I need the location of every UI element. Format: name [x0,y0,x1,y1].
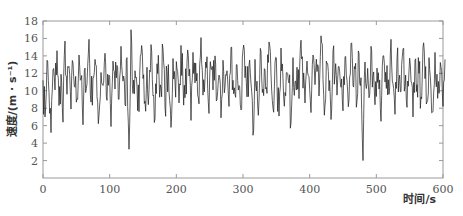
y-tick-label: 16 [24,32,38,45]
speed-time-chart: 0100200300400500600 24681012141618 时间/s … [0,0,463,216]
y-tick-label: 18 [24,15,38,28]
x-axis-title: 时间/s [403,192,436,206]
x-tick-label: 400 [299,183,320,196]
y-tick-label: 2 [31,155,38,168]
x-tick-label: 100 [99,183,120,196]
x-tick-label: 200 [166,183,187,196]
y-tick-label: 4 [31,137,38,150]
y-tick-label: 10 [24,85,38,98]
plot-area [43,21,443,178]
y-tick-label: 8 [31,102,38,115]
x-tick-label: 500 [366,183,387,196]
y-tick-label: 12 [24,67,38,80]
y-tick-label: 6 [31,120,38,133]
y-tick-label: 14 [24,50,38,63]
y-axis-title: 速度/(m · s⁻¹) [5,61,19,138]
x-tick-label: 0 [40,183,47,196]
x-tick-label: 300 [233,183,254,196]
